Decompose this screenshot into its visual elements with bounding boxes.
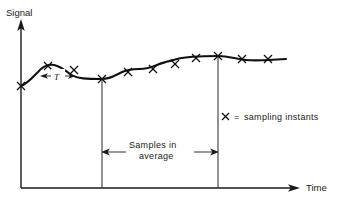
x-axis-label: Time — [306, 182, 327, 193]
averaging-window-annotation: Samples in average — [101, 136, 219, 161]
legend-label: sampling instants — [244, 112, 319, 122]
figure-canvas: Signal Time — [0, 0, 339, 210]
y-axis-label: Signal — [6, 7, 32, 18]
legend-sample-icon — [222, 113, 229, 120]
legend: = sampling instants — [222, 112, 319, 122]
sample-mark — [192, 54, 200, 62]
sample-mark — [70, 66, 78, 74]
averaging-window-markers — [102, 56, 218, 188]
sampling-period-annotation: T — [40, 69, 76, 82]
signal-sampling-figure: Signal Time — [0, 0, 339, 210]
window-label-line1: Samples in — [129, 140, 177, 150]
sample-mark — [171, 60, 179, 68]
window-label-line2: average — [139, 151, 174, 161]
axes-group — [17, 19, 300, 192]
legend-equals-sign: = — [234, 112, 240, 122]
